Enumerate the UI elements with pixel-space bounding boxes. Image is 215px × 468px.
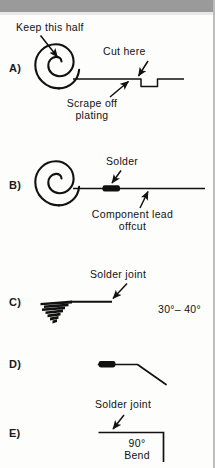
- arrow-pointer-icon: [113, 415, 124, 429]
- figure-page: A) B) C) D) E) Keep this half Cut here S…: [0, 0, 215, 468]
- callout-bend-angle: 90°: [117, 437, 157, 449]
- callout-plating: plating: [56, 109, 128, 121]
- callout-angle-range: 30°– 40°: [158, 303, 201, 315]
- solder-blob-icon: [99, 361, 116, 367]
- arrow-pointer-icon: [112, 171, 121, 184]
- callout-bend-word: Bend: [117, 449, 157, 461]
- arrow-pointer-icon: [110, 82, 129, 98]
- callout-solder-joint-e: Solder joint: [95, 398, 151, 410]
- panel-label-a: A): [9, 62, 21, 74]
- wire-line-icon: [73, 79, 184, 87]
- panel-label-b: B): [9, 179, 21, 191]
- spiral-coil-icon: [35, 161, 79, 205]
- callout-offcut: offcut: [60, 220, 205, 232]
- flattened-coil-icon: [41, 301, 73, 324]
- panel-d-drawing: [99, 361, 167, 385]
- callout-solder: Solder: [106, 155, 138, 167]
- callout-scrape-off: Scrape off: [56, 97, 128, 109]
- panel-b-drawing: [35, 161, 205, 208]
- callout-component-lead: Component lead: [60, 208, 205, 220]
- callout-solder-joint-c: Solder joint: [90, 268, 146, 280]
- callout-cut-here: Cut here: [103, 45, 146, 57]
- panel-label-c: C): [9, 296, 21, 308]
- arrow-pointer-icon: [139, 61, 149, 76]
- spiral-coil-icon: [35, 44, 79, 88]
- callout-keep-this-half: Keep this half: [16, 21, 84, 33]
- solder-blob-icon: [103, 185, 121, 191]
- panel-label-d: D): [9, 358, 21, 370]
- panel-label-e: E): [9, 427, 20, 439]
- panel-c-drawing: [41, 284, 128, 324]
- arrow-pointer-icon: [41, 36, 58, 58]
- arrow-pointer-icon: [113, 284, 127, 299]
- arrow-pointer-icon: [140, 192, 148, 209]
- wire-line-icon: [99, 365, 167, 385]
